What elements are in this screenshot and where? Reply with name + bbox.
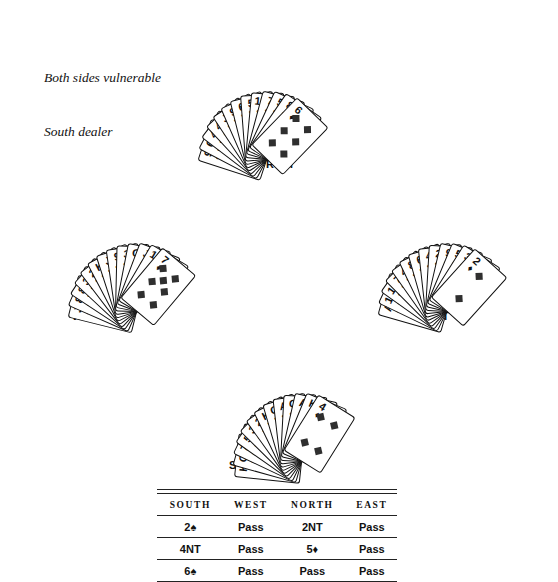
bidding-cell-north: 5♦ [278, 538, 347, 560]
pip-diamond [301, 439, 309, 447]
pip-diamond [303, 126, 310, 133]
pip-diamond [280, 150, 287, 157]
bidding-cell-west: Pass [224, 538, 279, 560]
vulnerability-line: Both sides vulnerable [44, 69, 161, 87]
bidding-cell-north: Pass [278, 560, 347, 582]
bidding-cell-east: Pass [347, 538, 397, 560]
bidding-body: 2♠Pass2NTPass4NTPass5♦Pass6♠PassPassPass [157, 516, 397, 582]
bidding-cell-east: Pass [347, 516, 397, 538]
bidding-header-row: SOUTH WEST NORTH EAST [157, 494, 397, 516]
bidding-row: 2♠Pass2NTPass [157, 516, 397, 538]
pip-diamond [455, 295, 462, 302]
bidding-cell-north: 2NT [278, 516, 347, 538]
dealer-line: South dealer [44, 123, 161, 141]
pip-diamond [330, 421, 338, 429]
pip-diamond [160, 288, 168, 296]
bidding-cell-south: 6♠ [157, 560, 224, 582]
bidding-table: SOUTH WEST NORTH EAST 2♠Pass2NTPass4NTPa… [157, 489, 397, 582]
bidding-cell-south: 2♠ [157, 516, 224, 538]
bidding-cell-west: Pass [224, 516, 279, 538]
pip-diamond [269, 139, 276, 146]
bidding-header-north: NORTH [278, 494, 347, 516]
deal-conditions-note: Both sides vulnerable South dealer [44, 33, 161, 177]
pip-diamond [314, 447, 322, 455]
card-corner-index: 4♦ [309, 398, 331, 422]
pip-diamond [150, 301, 158, 309]
bidding-row: 6♠PassPassPass [157, 560, 397, 582]
pip-diamond [149, 278, 157, 286]
bidding-header-east: EAST [347, 494, 397, 516]
pip-diamond [281, 127, 288, 134]
bidding-cell-east: Pass [347, 560, 397, 582]
pip-diamond [160, 277, 168, 285]
pip-diamond [171, 275, 179, 283]
bidding-header-south: SOUTH [157, 494, 224, 516]
pip-diamond [138, 291, 146, 299]
bidding-row: 4NTPass5♦Pass [157, 538, 397, 560]
pip-diamond [292, 138, 299, 145]
bidding-cell-south: 4NT [157, 538, 224, 560]
bidding-cell-west: Pass [224, 560, 279, 582]
bidding-header-west: WEST [224, 494, 279, 516]
pip-diamond [476, 272, 483, 279]
